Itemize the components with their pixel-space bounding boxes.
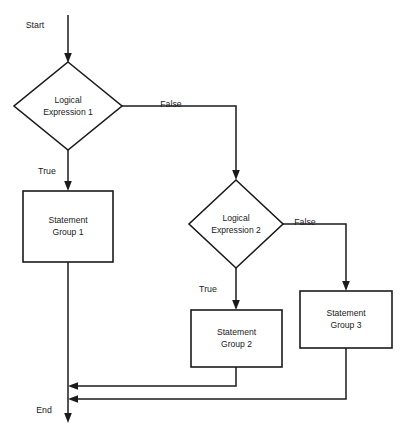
decision2-label-line1: Logical [222, 213, 249, 223]
decision1-label-line2: Expression 1 [43, 107, 93, 117]
edge-label-decision1-false: False [160, 99, 182, 109]
arrow-head-icon [64, 181, 72, 191]
decision1-label-line1: Logical [54, 95, 81, 105]
arrow-head-icon [64, 413, 72, 423]
edge-label-decision1-true: True [38, 166, 56, 176]
decision2-label-line2: Expression 2 [211, 225, 261, 235]
process-node-statement-group-2[interactable]: Statement Group 2 [191, 310, 282, 367]
edge-process2-to-end [68, 367, 236, 390]
edge-line [76, 367, 236, 386]
decision-node-logical-expression-1[interactable]: Logical Expression 1 [14, 62, 122, 150]
edge-decision2-false-to-process3 [283, 224, 350, 291]
start-label: Start [26, 20, 45, 30]
process3-label-line1: Statement [326, 308, 366, 318]
flowchart-canvas: Logical Expression 1 Logical Expression … [0, 0, 410, 438]
edge-start-to-decision1 [64, 15, 72, 63]
process1-label-line1: Statement [48, 215, 88, 225]
arrow-head-icon [342, 281, 350, 291]
edge-decision1-true-to-process1 [64, 150, 72, 191]
process-node-statement-group-1[interactable]: Statement Group 1 [23, 191, 113, 262]
edge-label-decision2-true: True [199, 284, 217, 294]
edge-decision2-true-to-process2 [232, 268, 240, 310]
edge-label-decision2-false: False [294, 217, 316, 227]
arrow-head-icon [232, 300, 240, 310]
process2-label-line1: Statement [217, 327, 257, 337]
arrow-head-icon [232, 170, 240, 180]
end-label: End [36, 405, 52, 415]
process3-label-line2: Group 3 [330, 320, 361, 330]
decision-node-logical-expression-2[interactable]: Logical Expression 2 [189, 180, 283, 268]
flowchart-svg: Logical Expression 1 Logical Expression … [0, 0, 410, 438]
process1-label-line2: Group 1 [52, 227, 83, 237]
process-node-statement-group-3[interactable]: Statement Group 3 [300, 291, 392, 348]
arrow-head-icon [68, 395, 78, 403]
arrow-head-icon [68, 382, 78, 390]
diamond-shape [14, 62, 122, 150]
diamond-shape [189, 180, 283, 268]
edge-line [122, 106, 236, 172]
edge-decision1-false-to-decision2 [122, 106, 240, 180]
edge-line [283, 224, 346, 284]
process2-label-line2: Group 2 [221, 339, 252, 349]
